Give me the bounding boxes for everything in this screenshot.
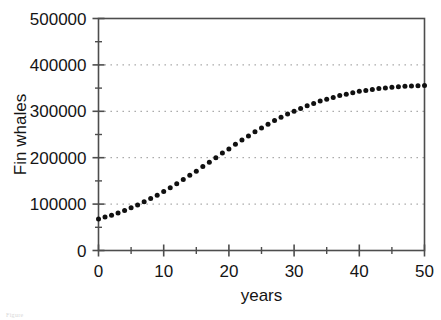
xtick-label: 10 (154, 262, 173, 281)
ytick-label: 400000 (30, 56, 87, 75)
data-point (415, 83, 420, 88)
data-point (370, 87, 375, 92)
data-point (129, 205, 134, 210)
data-point (376, 86, 381, 91)
data-point (383, 86, 388, 91)
fin-whales-scatter-chart: 0100000200000300000400000500000010203040… (0, 0, 441, 320)
ytick-label: 500000 (30, 10, 87, 29)
data-point (161, 189, 166, 194)
ytick-label: 0 (77, 242, 86, 261)
data-point (363, 88, 368, 93)
data-point (116, 210, 121, 215)
data-point (396, 84, 401, 89)
data-point (233, 142, 238, 147)
data-point (305, 103, 310, 108)
ytick-label: 100000 (30, 195, 87, 214)
data-point (344, 92, 349, 97)
data-point (109, 213, 114, 218)
data-point (168, 185, 173, 190)
y-tick-labels: 0100000200000300000400000500000 (30, 10, 87, 261)
data-point (422, 83, 427, 88)
gridlines (99, 65, 425, 204)
plot-frame (99, 19, 425, 251)
ytick-label: 200000 (30, 149, 87, 168)
data-point (103, 215, 108, 220)
data-point (389, 85, 394, 90)
x-tick-labels: 01020304050 (94, 262, 434, 281)
data-point (272, 118, 277, 123)
xtick-label: 40 (350, 262, 369, 281)
data-point (213, 155, 218, 160)
data-point (135, 203, 140, 208)
data-point (194, 169, 199, 174)
xtick-label: 20 (219, 262, 238, 281)
data-point (259, 126, 264, 131)
y-axis-title: Fin whales (11, 94, 30, 175)
plot-border (99, 19, 425, 251)
data-point (292, 109, 297, 114)
data-point (187, 173, 192, 178)
data-point (324, 97, 329, 102)
data-point (207, 160, 212, 165)
data-point (357, 89, 362, 94)
data-point (239, 138, 244, 143)
data-point (409, 84, 414, 89)
data-point (337, 93, 342, 98)
data-series (96, 83, 427, 221)
data-point (266, 122, 271, 127)
data-point (148, 196, 153, 201)
xtick-label: 0 (94, 262, 103, 281)
xtick-label: 30 (285, 262, 304, 281)
data-point (402, 84, 407, 89)
data-point (200, 164, 205, 169)
data-point (246, 133, 251, 138)
data-point (298, 106, 303, 111)
ytick-label: 300000 (30, 102, 87, 121)
data-point (122, 208, 127, 213)
data-point (252, 129, 257, 134)
figure-container: 0100000200000300000400000500000010203040… (0, 0, 441, 320)
data-point (318, 99, 323, 104)
xtick-label: 50 (415, 262, 434, 281)
axis-ticks (93, 19, 425, 257)
x-axis-title: years (241, 286, 283, 305)
data-point (226, 146, 231, 151)
data-point (311, 101, 316, 106)
data-point (220, 151, 225, 156)
data-point (285, 112, 290, 117)
data-point (174, 181, 179, 186)
data-point (331, 95, 336, 100)
data-point (155, 193, 160, 198)
data-point (142, 199, 147, 204)
data-point (96, 216, 101, 221)
data-point (181, 177, 186, 182)
data-point (279, 115, 284, 120)
data-point (350, 90, 355, 95)
figure-caption-fragment: Figure (6, 312, 23, 318)
